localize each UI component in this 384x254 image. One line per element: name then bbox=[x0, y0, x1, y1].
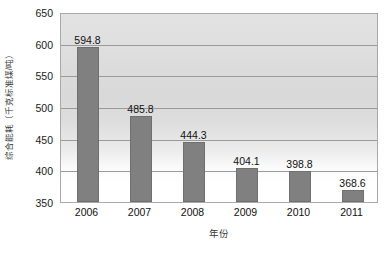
x-axis-tick-label: 2007 bbox=[128, 206, 151, 218]
y-axis-tick-label: 450 bbox=[35, 134, 53, 146]
bar-value-label: 594.8 bbox=[74, 34, 100, 46]
y-axis-title: 综合能耗（千克标准煤/吨） bbox=[0, 0, 16, 210]
gridline bbox=[61, 171, 377, 172]
y-axis-tick-label: 650 bbox=[35, 7, 53, 19]
x-axis-tick-label: 2011 bbox=[340, 206, 363, 218]
bar-value-label: 398.8 bbox=[286, 158, 312, 170]
bar-value-label: 444.3 bbox=[180, 129, 206, 141]
gridline bbox=[61, 76, 377, 77]
x-axis-tick-label: 2006 bbox=[75, 206, 98, 218]
bar[interactable] bbox=[289, 171, 311, 202]
y-axis-tick-labels: 350400450500550600650 bbox=[16, 13, 57, 203]
bar-value-label: 485.8 bbox=[127, 103, 153, 115]
x-axis-title: 年份 bbox=[60, 226, 378, 240]
y-axis-tick-label: 350 bbox=[35, 197, 53, 209]
bar[interactable] bbox=[342, 190, 364, 202]
x-axis-tick-label: 2008 bbox=[181, 206, 204, 218]
gridline bbox=[61, 108, 377, 109]
gridline bbox=[61, 45, 377, 46]
bar-chart: 综合能耗（千克标准煤/吨） 350400450500550600650 594.… bbox=[0, 0, 384, 254]
x-axis-tick-label: 2009 bbox=[234, 206, 257, 218]
bar[interactable] bbox=[183, 142, 205, 202]
bar-value-label: 368.6 bbox=[339, 177, 365, 189]
y-axis-tick-label: 600 bbox=[35, 39, 53, 51]
y-axis-tick-label: 550 bbox=[35, 70, 53, 82]
bar-value-label: 404.1 bbox=[233, 155, 259, 167]
y-axis-title-text: 综合能耗（千克标准煤/吨） bbox=[2, 50, 14, 160]
plot-area: 594.8485.8444.3404.1398.8368.6 bbox=[60, 13, 378, 203]
gridline bbox=[61, 140, 377, 141]
x-axis-tick-label: 2010 bbox=[287, 206, 310, 218]
x-axis-tick-labels: 200620072008200920102011 bbox=[60, 206, 378, 224]
bar[interactable] bbox=[77, 47, 99, 202]
y-axis-tick-label: 400 bbox=[35, 165, 53, 177]
bar[interactable] bbox=[236, 168, 258, 202]
bar[interactable] bbox=[130, 116, 152, 202]
y-axis-tick-label: 500 bbox=[35, 102, 53, 114]
